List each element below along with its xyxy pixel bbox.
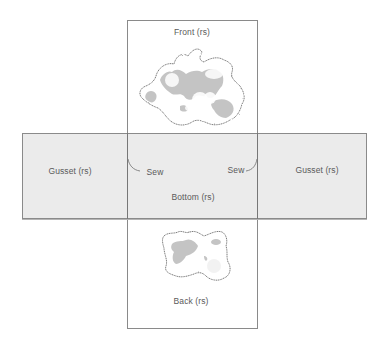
- back-motif-icon: [158, 226, 234, 286]
- gusset-band: [22, 133, 367, 219]
- back-label: Back (rs): [174, 296, 209, 306]
- sew-left-label: Sew: [147, 167, 164, 177]
- bottom-label: Bottom (rs): [171, 192, 214, 202]
- sew-right-label: Sew: [228, 165, 245, 175]
- pattern-diagram: Front (rs) Gusset (rs) Sew Sew Gusset (r…: [0, 0, 381, 348]
- seam-line-left: [127, 133, 128, 219]
- gusset-left-label: Gusset (rs): [48, 166, 91, 176]
- sew-left-arrow-icon: [127, 158, 143, 174]
- seam-line-right: [257, 133, 258, 219]
- front-label: Front (rs): [174, 27, 210, 37]
- gusset-right-label: Gusset (rs): [295, 165, 338, 175]
- sew-right-arrow-icon: [243, 158, 259, 174]
- front-motif-icon: [136, 42, 248, 128]
